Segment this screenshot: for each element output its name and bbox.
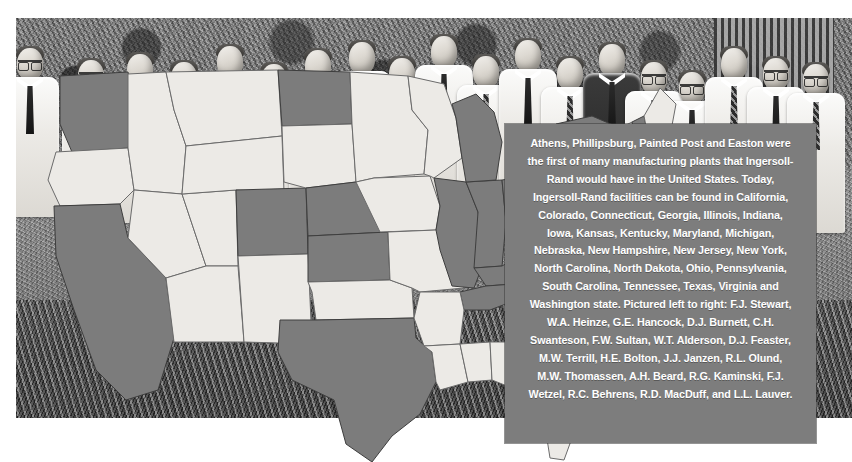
eyeglasses-icon bbox=[764, 70, 788, 79]
photo-page: Athens, Phillipsburg, Painted Post and E… bbox=[0, 0, 852, 462]
eyeglasses-icon bbox=[804, 76, 828, 85]
head bbox=[389, 58, 415, 90]
head bbox=[431, 36, 457, 68]
caption-text: Athens, Phillipsburg, Painted Post and E… bbox=[527, 134, 794, 403]
eyeglasses-icon bbox=[642, 74, 666, 83]
head bbox=[171, 62, 197, 94]
head bbox=[557, 58, 583, 90]
eyeglasses-icon bbox=[262, 76, 286, 85]
eyeglasses-icon bbox=[680, 84, 704, 93]
head bbox=[127, 54, 153, 86]
torso bbox=[16, 77, 59, 217]
head bbox=[721, 48, 747, 80]
head bbox=[217, 46, 243, 78]
eyeglasses-icon bbox=[79, 72, 103, 81]
head bbox=[305, 50, 331, 82]
head bbox=[599, 44, 625, 76]
head bbox=[349, 42, 375, 74]
eyeglasses-icon bbox=[18, 60, 42, 69]
caption-box: Athens, Phillipsburg, Painted Post and E… bbox=[505, 124, 816, 443]
head bbox=[473, 56, 499, 88]
head bbox=[515, 40, 541, 72]
